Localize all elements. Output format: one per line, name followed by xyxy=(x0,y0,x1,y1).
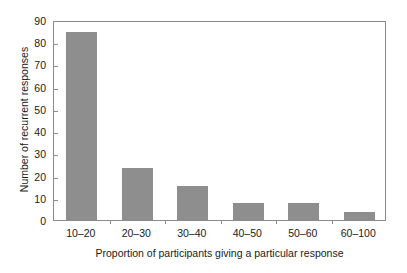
y-axis-tick-labels: 0102030405060708090 xyxy=(24,0,46,273)
x-axis-tick-labels: 10–2020–3030–4040–5050–6060–100 xyxy=(53,226,386,242)
y-axis-tick-mark xyxy=(54,133,58,134)
y-axis-tick-label: 30 xyxy=(24,149,46,160)
y-axis-tick-mark xyxy=(54,155,58,156)
y-axis-tick-label: 20 xyxy=(24,171,46,182)
y-axis-tick-mark xyxy=(54,200,58,201)
y-axis-tick-mark xyxy=(54,89,58,90)
y-axis-tick-label: 80 xyxy=(24,38,46,49)
y-axis-tick-label: 40 xyxy=(24,127,46,138)
y-axis-tick-mark xyxy=(54,66,58,67)
y-axis-tick-label: 50 xyxy=(24,105,46,116)
y-axis-tick-mark xyxy=(54,111,58,112)
plot-area xyxy=(53,21,386,221)
y-axis-tick-label: 60 xyxy=(24,82,46,93)
x-axis-title: Proportion of participants giving a part… xyxy=(53,246,386,260)
bar-chart-figure: Number of recurrent responses 0102030405… xyxy=(0,0,407,273)
bar xyxy=(233,203,264,220)
bar xyxy=(122,168,153,220)
x-axis-tick-label: 50–60 xyxy=(288,226,317,240)
x-axis-tick-label: 10–20 xyxy=(66,226,95,240)
x-axis-tick-label: 20–30 xyxy=(122,226,151,240)
x-axis-tick-mark xyxy=(165,220,166,224)
x-axis-tick-mark xyxy=(276,220,277,224)
y-axis-tick-label: 10 xyxy=(24,194,46,205)
y-axis-tick-mark xyxy=(54,178,58,179)
x-axis-tick-mark xyxy=(110,220,111,224)
bar xyxy=(288,203,319,220)
y-axis-tick-label: 70 xyxy=(24,60,46,71)
x-axis-tick-mark xyxy=(221,220,222,224)
x-axis-tick-label: 40–50 xyxy=(233,226,262,240)
bar xyxy=(66,32,97,220)
y-axis-tick-mark xyxy=(54,44,58,45)
bar xyxy=(344,212,375,220)
y-axis-tick-label: 90 xyxy=(24,16,46,27)
bar xyxy=(177,186,208,220)
x-axis-tick-label: 30–40 xyxy=(177,226,206,240)
x-axis-tick-mark xyxy=(332,220,333,224)
x-axis-tick-label: 60–100 xyxy=(341,226,376,240)
plot-inner-surface xyxy=(54,22,385,220)
y-axis-tick-label: 0 xyxy=(24,216,46,227)
